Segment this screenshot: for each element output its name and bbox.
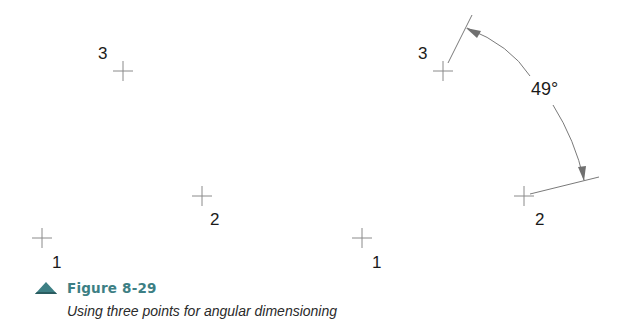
point-3-cross-icon — [433, 61, 453, 81]
extension-line-3 — [448, 15, 472, 63]
arrowhead-lower-icon — [578, 166, 586, 181]
point-1-cross-icon — [352, 228, 372, 248]
arrowheads — [466, 28, 586, 181]
right-point-3-label: 3 — [418, 45, 427, 62]
left-point-2-label: 2 — [210, 211, 219, 228]
arrowhead-upper-icon — [466, 28, 481, 38]
point-3-cross-icon — [113, 61, 133, 81]
left-point-1-label: 1 — [52, 254, 61, 271]
point-2-cross-icon — [514, 186, 534, 206]
right-point-markers — [352, 61, 534, 248]
point-1-cross-icon — [32, 228, 52, 248]
figure-description: Using three points for angular dimension… — [67, 303, 337, 319]
left-point-markers — [32, 61, 212, 248]
figure-number: Figure 8-29 — [67, 280, 157, 296]
angle-value-label: 49° — [529, 80, 560, 98]
right-point-1-label: 1 — [372, 254, 381, 271]
left-point-3-label: 3 — [98, 45, 107, 62]
triangle-icon — [33, 281, 59, 295]
right-point-2-label: 2 — [535, 211, 544, 228]
extension-line-2 — [530, 177, 599, 194]
point-2-cross-icon — [192, 186, 212, 206]
angular-dimension — [448, 15, 599, 194]
